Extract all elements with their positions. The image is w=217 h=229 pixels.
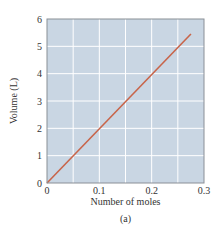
y-tick-labels: 0123456	[37, 14, 42, 189]
x-tick-label: 0	[45, 185, 50, 196]
x-tick-label: 0.3	[198, 185, 211, 196]
y-tick-label: 2	[37, 123, 42, 134]
x-tick-labels: 00.10.20.3	[45, 185, 211, 196]
y-axis-label: Volume (L)	[8, 78, 20, 124]
y-tick-label: 6	[37, 14, 42, 25]
y-tick-label: 1	[37, 150, 42, 161]
figure-caption: (a)	[120, 213, 131, 225]
x-tick-label: 0.2	[145, 185, 158, 196]
x-tick-label: 0.1	[93, 185, 106, 196]
chart: 00.10.20.3 0123456 Number of moles Volum…	[0, 0, 217, 229]
y-tick-label: 5	[37, 41, 42, 52]
x-axis-label: Number of moles	[91, 196, 161, 207]
y-tick-label: 3	[37, 96, 42, 107]
y-tick-label: 0	[37, 178, 42, 189]
y-tick-label: 4	[37, 68, 42, 79]
